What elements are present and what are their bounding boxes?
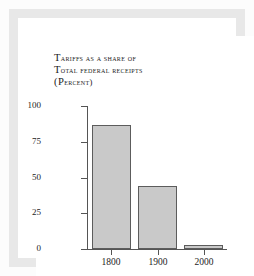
x-tick-label-1800: 1800: [89, 257, 133, 268]
figure-border: Tariffs as a share of Total federal rece…: [9, 9, 245, 267]
figure-frame: Tariffs as a share of Total federal rece…: [0, 0, 254, 276]
y-tick-50: [81, 178, 87, 179]
x-tick-1800: [111, 250, 112, 255]
y-tick-100: [81, 106, 87, 107]
plot-area: 100 75 50 25 0 1800 1900 200: [36, 36, 254, 276]
y-tick-75: [81, 142, 87, 143]
bar-1800: [92, 125, 131, 249]
y-tick-label-75: 75: [1, 137, 41, 146]
y-tick-25: [81, 213, 87, 214]
chart-plate: Tariffs as a share of Total federal rece…: [36, 36, 254, 276]
y-tick-label-25: 25: [1, 208, 41, 217]
y-tick-label-100: 100: [1, 101, 41, 110]
y-tick-label-0: 0: [1, 244, 41, 253]
x-tick-1900: [158, 250, 159, 255]
x-axis-line: [87, 249, 227, 250]
x-tick-2000: [204, 250, 205, 255]
x-tick-label-1900: 1900: [136, 257, 180, 268]
y-tick-label-50: 50: [1, 173, 41, 182]
bar-2000: [184, 245, 223, 249]
y-axis-line: [87, 106, 88, 250]
y-tick-0: [81, 249, 87, 250]
x-tick-label-2000: 2000: [182, 257, 226, 268]
bar-1900: [138, 186, 177, 249]
